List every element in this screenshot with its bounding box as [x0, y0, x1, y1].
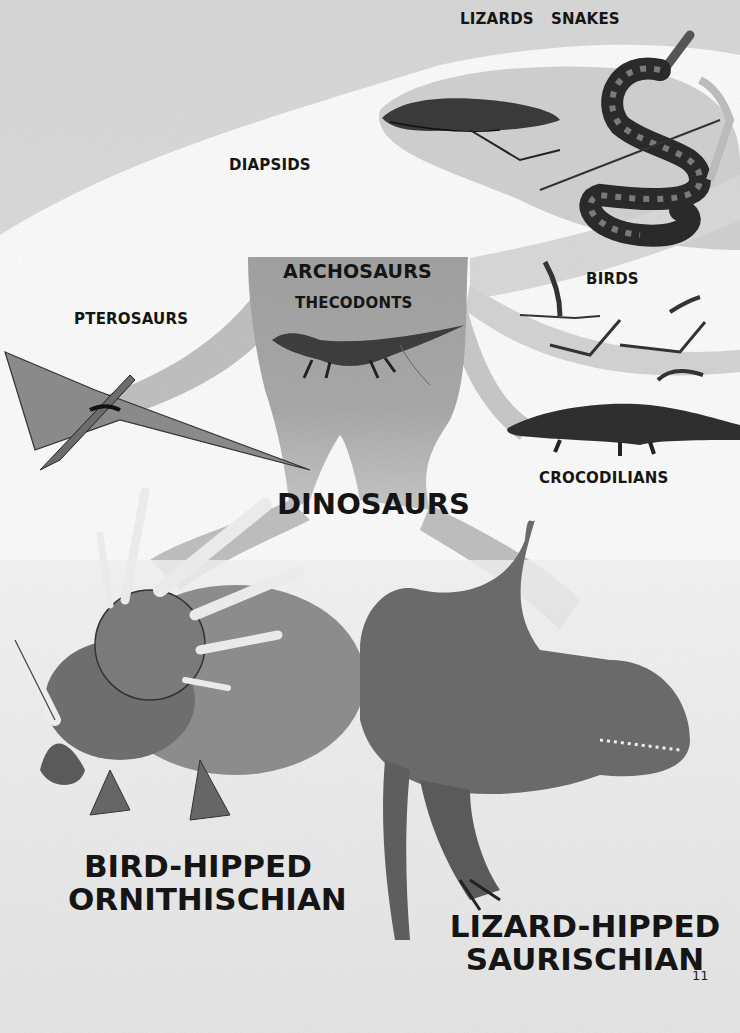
label-dinosaurs: DINOSAURS: [277, 490, 470, 519]
label-thecodonts: THECODONTS: [295, 296, 413, 311]
label-birds: BIRDS: [586, 272, 639, 287]
page-number: 11: [692, 968, 709, 983]
book-page: LIZARDS SNAKES DIAPSIDS ARCHOSAURS THECO…: [0, 0, 740, 1033]
label-saurischian: SAURISCHIAN: [449, 943, 721, 976]
label-crocodilians: CROCODILIANS: [539, 471, 669, 486]
label-lizard-hipped: LIZARD-HIPPED: [449, 910, 721, 943]
label-bird-hipped-ornithischian: BIRD-HIPPED ORNITHISCHIAN: [68, 850, 328, 916]
label-bird-hipped: BIRD-HIPPED: [68, 850, 328, 883]
label-pterosaurs: PTEROSAURS: [74, 312, 188, 327]
label-lizards: LIZARDS: [460, 12, 534, 27]
label-diapsids: DIAPSIDS: [229, 158, 311, 173]
label-lizard-hipped-saurischian: LIZARD-HIPPED SAURISCHIAN: [449, 910, 721, 976]
label-snakes: SNAKES: [551, 12, 620, 27]
label-ornithischian: ORNITHISCHIAN: [68, 883, 328, 916]
label-archosaurs: ARCHOSAURS: [283, 262, 432, 281]
